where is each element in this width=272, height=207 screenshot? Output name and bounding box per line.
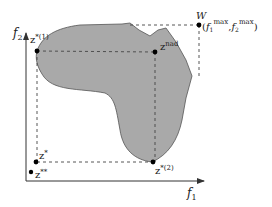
y-axis-label: f2 [12, 26, 23, 42]
pareto-diagram: f2 f1 z*(1) znad W (f1max,f2max) z*(2) z… [0, 0, 272, 207]
point-z-star [34, 160, 39, 165]
label-z-star-2: z*(2) [155, 164, 174, 176]
label-W: W [196, 10, 207, 21]
point-z-star-2 [151, 160, 156, 165]
label-z-star: z* [39, 149, 48, 161]
point-z-star-1 [35, 49, 40, 54]
label-z-star-star: z** [35, 168, 48, 180]
point-W [197, 23, 202, 28]
point-z-nad [153, 50, 158, 55]
point-z-star-star [29, 170, 33, 174]
x-axis-label: f1 [186, 186, 197, 202]
label-W-coords: (f1max,f2max) [202, 18, 258, 33]
